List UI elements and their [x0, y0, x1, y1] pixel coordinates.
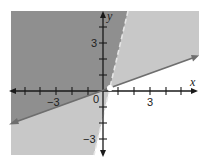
- y-axis-label: y: [106, 9, 113, 23]
- x-tick-label-neg3: −3: [47, 96, 60, 108]
- shaded-regions: [11, 11, 199, 155]
- intersection-open-circle: [107, 85, 112, 90]
- origin-label: 0: [93, 93, 99, 105]
- inequality-graph: x y 0 −3 3 3 −3: [0, 0, 208, 163]
- y-tick-label-pos3: 3: [91, 37, 97, 49]
- x-axis-label: x: [189, 75, 196, 89]
- y-tick-label-neg3: −3: [83, 133, 96, 145]
- x-tick-label-pos3: 3: [147, 96, 153, 108]
